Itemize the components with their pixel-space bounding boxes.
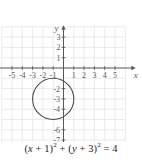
x-tick-label: 2 bbox=[82, 71, 86, 80]
coordinate-plane: -5-4-3-2-112345 321-2-3-4-6-7 x y bbox=[0, 0, 142, 142]
caption-plus-2: + bbox=[77, 143, 88, 154]
x-tick-label: -5 bbox=[9, 71, 16, 80]
equation-caption: (x + 1)2 + (y + 3)2 = 4 bbox=[0, 141, 142, 154]
y-axis-arrowhead bbox=[61, 25, 65, 30]
y-tick-label: -6 bbox=[53, 126, 60, 135]
x-axis-label: x bbox=[133, 70, 138, 80]
x-tick-label: -3 bbox=[29, 71, 36, 80]
plot-svg: -5-4-3-2-112345 321-2-3-4-6-7 x y bbox=[0, 0, 142, 142]
caption-plus-1: + bbox=[33, 143, 44, 154]
y-tick-label: -3 bbox=[53, 95, 60, 104]
x-tick-label: 4 bbox=[103, 71, 107, 80]
y-tick-label: -4 bbox=[53, 105, 60, 114]
x-tick-label: 1 bbox=[72, 71, 76, 80]
y-tick-label: -2 bbox=[53, 85, 60, 94]
y-tick-label: 1 bbox=[57, 54, 61, 63]
caption-result-4: 4 bbox=[112, 143, 117, 154]
caption-equals: = bbox=[101, 143, 112, 154]
y-tick-label: 2 bbox=[57, 43, 61, 52]
y-tick-label: 3 bbox=[57, 33, 61, 42]
x-tick-label: 3 bbox=[92, 71, 96, 80]
x-tick-label: -2 bbox=[40, 71, 47, 80]
y-axis-label: y bbox=[54, 23, 59, 33]
x-tick-label: 5 bbox=[113, 71, 117, 80]
x-tick-label: -4 bbox=[19, 71, 26, 80]
y-axis-tick-labels: 321-2-3-4-6-7 bbox=[53, 33, 60, 142]
caption-plus-middle: + bbox=[57, 143, 68, 154]
graph-figure: -5-4-3-2-112345 321-2-3-4-6-7 x y (x + 1… bbox=[0, 0, 142, 162]
